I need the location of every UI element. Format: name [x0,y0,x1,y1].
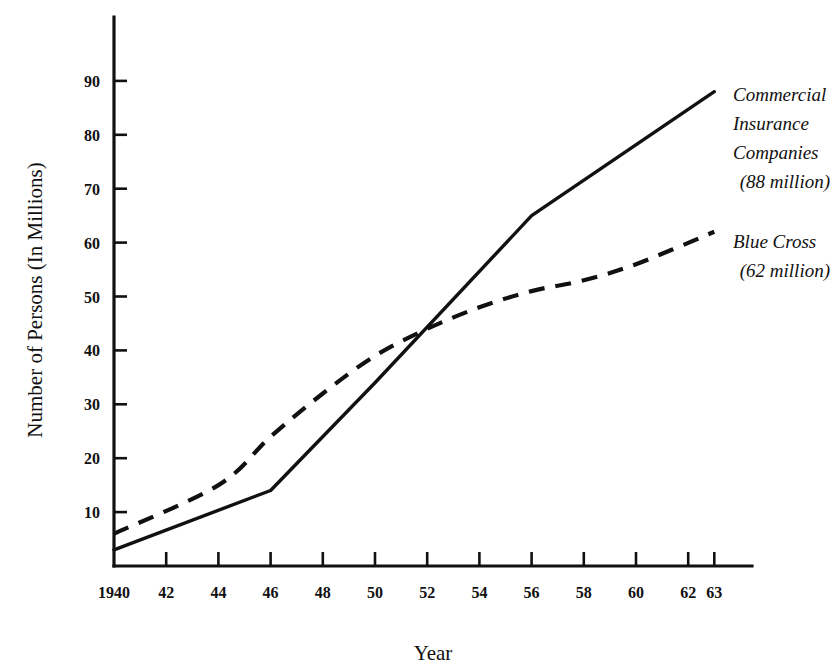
y-tick-label-50: 50 [84,289,100,306]
y-tick-label-20: 20 [84,450,100,467]
y-tick-label-90: 90 [84,73,100,90]
annotation-line-2: Insurance [732,113,809,134]
axes [114,17,752,566]
annotation-value-label: (62 million) [740,260,830,282]
x-axis-ticks: 1940424446485052545658606263 [98,552,722,601]
x-tick-label-1944: 44 [210,584,226,601]
annotation-commercial-insurance-companies: Commercial Insurance Companies (88 milli… [732,84,830,193]
series-line-commercial-insurance-companies [114,92,714,550]
y-axis-ticks: 102030405060708090 [84,73,127,521]
series-group [114,92,714,550]
line-chart: 102030405060708090 194042444648505254565… [0,0,837,672]
x-tick-label-1940: 1940 [98,584,130,601]
annotation-line-1: Commercial [733,84,826,105]
x-tick-label-1954: 54 [471,584,487,601]
x-tick-label-1946: 46 [263,584,279,601]
x-tick-label-1958: 58 [576,584,592,601]
series-line-blue-cross [114,232,714,534]
x-tick-label-1962: 62 [680,584,696,601]
y-tick-label-30: 30 [84,396,100,413]
x-tick-label-1963: 63 [706,584,722,601]
y-tick-label-60: 60 [84,235,100,252]
y-tick-label-10: 10 [84,504,100,521]
x-tick-label-1952: 52 [419,584,435,601]
x-tick-label-1948: 48 [315,584,331,601]
x-axis-title: Year [414,641,453,665]
x-tick-label-1960: 60 [628,584,644,601]
annotation-value-label: (88 million) [740,171,830,193]
y-tick-label-80: 80 [84,127,100,144]
x-tick-label-1956: 56 [524,584,540,601]
x-tick-label-1950: 50 [367,584,383,601]
y-tick-label-40: 40 [84,342,100,359]
y-tick-label-70: 70 [84,181,100,198]
annotation-blue-cross: Blue Cross (62 million) [733,231,830,282]
x-tick-label-1942: 42 [158,584,174,601]
annotation-line-1: Blue Cross [733,231,816,252]
y-axis-title: Number of Persons (In Millions) [23,162,47,437]
annotation-line-3: Companies [733,142,819,163]
chart-canvas: 102030405060708090 194042444648505254565… [0,0,837,672]
